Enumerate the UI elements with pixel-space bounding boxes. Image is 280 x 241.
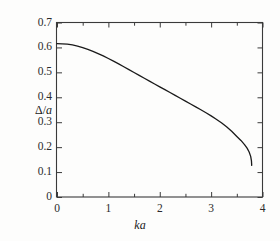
x-tick-label: 3	[208, 203, 214, 215]
x-tick-label: 2	[157, 203, 163, 215]
y-tick-label: 0.2	[8, 141, 52, 153]
chart-figure: 00.10.20.30.40.50.60.7 01234 Δ/a ka	[0, 0, 280, 241]
x-tick-label: 4	[260, 203, 266, 215]
y-tick-label: 0.4	[8, 92, 52, 104]
x-tick-label: 1	[106, 203, 112, 215]
y-tick-label: 0.6	[8, 42, 52, 54]
data-series-group	[57, 44, 252, 166]
y-tick-label: 0.5	[8, 67, 52, 79]
y-tick-label: 0.3	[8, 116, 52, 128]
x-axis-title: ka	[0, 219, 280, 231]
y-axis-title: Δ/a	[8, 104, 52, 116]
x-tick-label: 0	[54, 203, 60, 215]
y-tick-label: 0.1	[8, 166, 52, 178]
y-tick-label: 0	[8, 191, 52, 203]
data-series-line	[57, 44, 252, 166]
y-tick-label: 0.7	[8, 17, 52, 29]
